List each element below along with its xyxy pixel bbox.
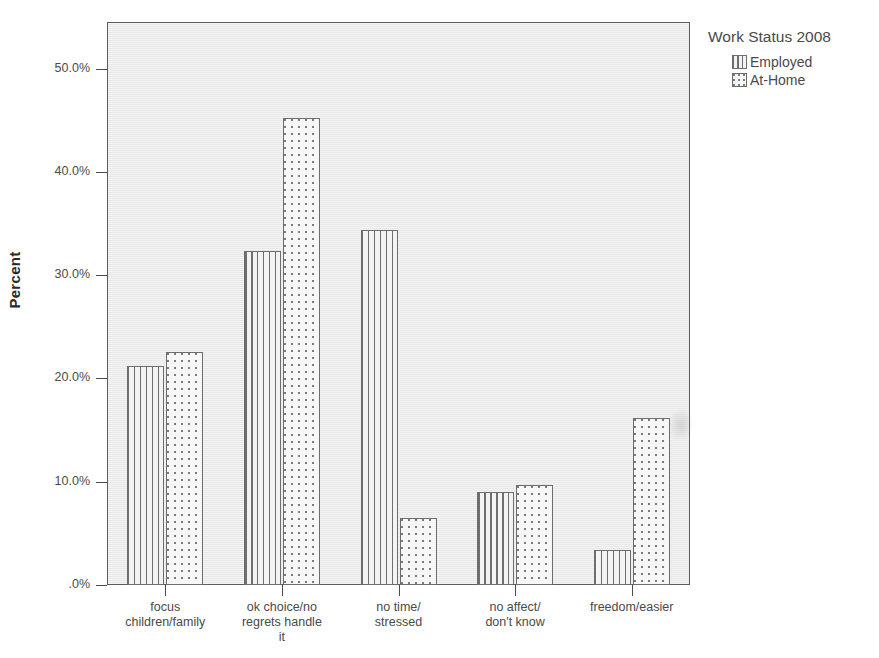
legend-item-employed[interactable]: Employed (732, 54, 876, 70)
bar-employed-3 (361, 230, 398, 585)
y-axis-tick (96, 585, 107, 586)
x-axis-category-label: focus children/family (107, 600, 224, 630)
legend-item-label: Employed (750, 54, 812, 70)
bar-at-home-3 (400, 518, 437, 585)
legend-swatch-icon (732, 55, 747, 69)
y-axis-tick (96, 69, 107, 70)
bar-at-home-4 (516, 485, 553, 585)
x-axis-category-label: no time/ stressed (340, 600, 457, 630)
x-axis-category-label: no affect/ don't know (457, 600, 574, 630)
x-axis-tick (632, 585, 633, 596)
y-axis-tick-label: .0% (10, 577, 90, 591)
x-axis-category-label: freedom/easier (573, 600, 690, 615)
y-axis-tick-label: 20.0% (10, 370, 90, 384)
bar-employed-4 (477, 492, 514, 585)
y-axis-tick-label: 30.0% (10, 267, 90, 281)
legend: Work Status 2008 EmployedAt-Home (708, 28, 876, 90)
y-axis-tick-label: 10.0% (10, 474, 90, 488)
bar-employed-5 (594, 550, 631, 585)
bar-chart: Percent .0%10.0%20.0%30.0%40.0%50.0% foc… (0, 0, 879, 658)
bars-layer (107, 22, 690, 585)
y-axis-tick (96, 378, 107, 379)
x-axis-tick (515, 585, 516, 596)
y-axis-tick (96, 275, 107, 276)
y-axis-tick-label: 50.0% (10, 61, 90, 75)
x-axis-tick (282, 585, 283, 596)
legend-swatch-icon (732, 73, 747, 87)
y-axis-tick-label: 40.0% (10, 164, 90, 178)
x-axis-tick (399, 585, 400, 596)
legend-item-label: At-Home (750, 72, 805, 88)
x-axis-tick (165, 585, 166, 596)
legend-title: Work Status 2008 (708, 28, 876, 46)
bar-at-home-2 (283, 118, 320, 585)
legend-item-at-home[interactable]: At-Home (732, 72, 876, 88)
legend-items: EmployedAt-Home (708, 54, 876, 88)
bar-employed-2 (244, 251, 281, 585)
bar-at-home-5 (633, 418, 670, 585)
bar-at-home-1 (166, 352, 203, 585)
bar-employed-1 (127, 366, 164, 585)
y-axis-tick (96, 172, 107, 173)
x-axis-category-label: ok choice/no regrets handle it (224, 600, 341, 645)
y-axis-tick (96, 482, 107, 483)
